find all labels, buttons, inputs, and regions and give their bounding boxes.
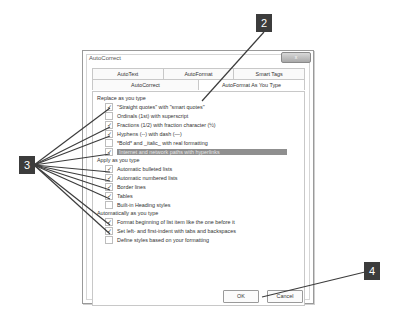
callout-lines: [0, 0, 394, 326]
callout-badge-3: 3: [19, 156, 35, 174]
callout-badge-4: 4: [364, 262, 380, 280]
callout-badge-2: 2: [256, 14, 272, 32]
